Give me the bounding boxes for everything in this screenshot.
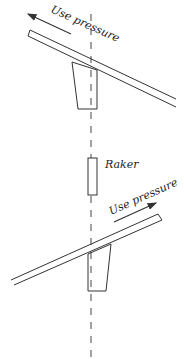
raker-label: Raker (104, 158, 139, 171)
raker-tooth (88, 158, 97, 195)
bottom-blade (11, 214, 162, 285)
top-tooth (72, 62, 97, 109)
top-blade (28, 30, 176, 107)
top-pressure-label: Use pressure (49, 3, 122, 45)
raker-diagram: Use pressure Raker Use pressure (0, 0, 184, 359)
bottom-pressure-label: Use pressure (107, 176, 180, 218)
